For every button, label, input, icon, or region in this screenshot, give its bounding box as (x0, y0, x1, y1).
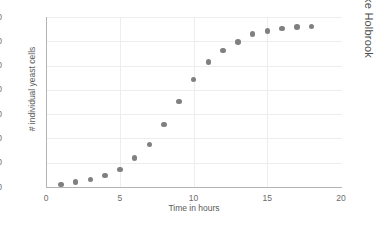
copyright-watermark: © Luke Holbrook (363, 0, 375, 58)
data-point (102, 173, 108, 179)
gridline-horizontal (47, 66, 342, 67)
gridline-horizontal (47, 114, 342, 115)
data-point (176, 99, 182, 105)
y-tick-label: 300 (0, 110, 2, 119)
x-tick-label: 0 (35, 194, 57, 203)
y-tick-label: 400 (0, 85, 2, 94)
y-axis-line (46, 17, 47, 188)
y-tick-label: 700 (0, 13, 2, 22)
y-tick-label: 200 (0, 134, 2, 143)
y-tick-label: 0 (0, 183, 2, 192)
x-tick-label: 15 (256, 194, 278, 203)
chart-figure: 0100200300400500600700 05101520 Time in … (0, 0, 377, 226)
gridline-horizontal (47, 138, 342, 139)
gridline-horizontal (47, 163, 342, 164)
gridline-vertical (194, 17, 195, 187)
gridline-vertical (120, 17, 121, 187)
gridline-vertical (267, 17, 268, 187)
data-point (265, 28, 271, 34)
data-point (73, 179, 79, 185)
y-tick-label: 100 (0, 158, 2, 167)
gridline-horizontal (47, 90, 342, 91)
x-tick-label: 20 (330, 194, 352, 203)
data-point (147, 142, 153, 148)
y-tick-label: 500 (0, 61, 2, 70)
x-axis-line (46, 187, 342, 188)
y-tick-label: 600 (0, 37, 2, 46)
data-point (58, 182, 64, 188)
data-point (88, 177, 94, 183)
data-point (309, 24, 315, 30)
y-axis-title: # individual yeast cells (27, 9, 37, 169)
data-point (294, 24, 300, 30)
data-point (132, 155, 138, 161)
data-point (220, 48, 226, 54)
gridline-horizontal (47, 41, 342, 42)
x-tick-label: 10 (183, 194, 205, 203)
gridline-horizontal (47, 17, 342, 18)
plot-area: 0100200300400500600700 05101520 (46, 17, 342, 188)
data-point (161, 122, 167, 128)
data-point (279, 26, 285, 32)
data-point (117, 167, 123, 173)
x-axis-title: Time in hours (46, 203, 342, 213)
data-point (235, 39, 241, 45)
x-tick-label: 5 (109, 194, 131, 203)
data-point (191, 77, 197, 83)
data-point (250, 31, 256, 37)
data-point (206, 59, 212, 65)
